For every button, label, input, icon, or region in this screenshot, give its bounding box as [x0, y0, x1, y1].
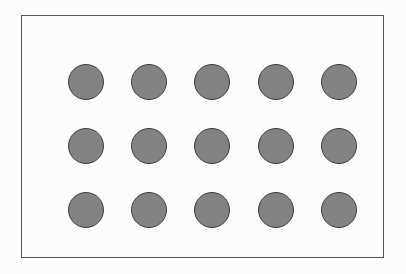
dot-cell: [181, 50, 244, 114]
dot-cell: [54, 50, 117, 114]
dot-cell: [308, 114, 371, 178]
dot-cell: [244, 114, 307, 178]
dot-r2-c5: [321, 128, 357, 164]
dot-r3-c4: [258, 192, 294, 228]
dot-r3-c1: [68, 192, 104, 228]
dot-r2-c3: [194, 128, 230, 164]
dot-cell: [308, 178, 371, 242]
dot-cell: [54, 178, 117, 242]
dot-cell: [117, 114, 180, 178]
dot-r2-c2: [131, 128, 167, 164]
dot-r1-c4: [258, 64, 294, 100]
dot-cell: [117, 50, 180, 114]
dot-cell: [244, 178, 307, 242]
dot-r3-c2: [131, 192, 167, 228]
dot-r1-c1: [68, 64, 104, 100]
dot-cell: [244, 50, 307, 114]
dot-r2-c1: [68, 128, 104, 164]
dot-cell: [117, 178, 180, 242]
dot-grid: [54, 50, 371, 242]
dot-r3-c5: [321, 192, 357, 228]
panel-border: [21, 15, 384, 258]
dot-r2-c4: [258, 128, 294, 164]
dot-cell: [308, 50, 371, 114]
dot-cell: [181, 178, 244, 242]
dot-cell: [181, 114, 244, 178]
dot-r1-c3: [194, 64, 230, 100]
dot-r3-c3: [194, 192, 230, 228]
dot-r1-c5: [321, 64, 357, 100]
dot-r1-c2: [131, 64, 167, 100]
figure-canvas: [0, 0, 406, 274]
dot-cell: [54, 114, 117, 178]
